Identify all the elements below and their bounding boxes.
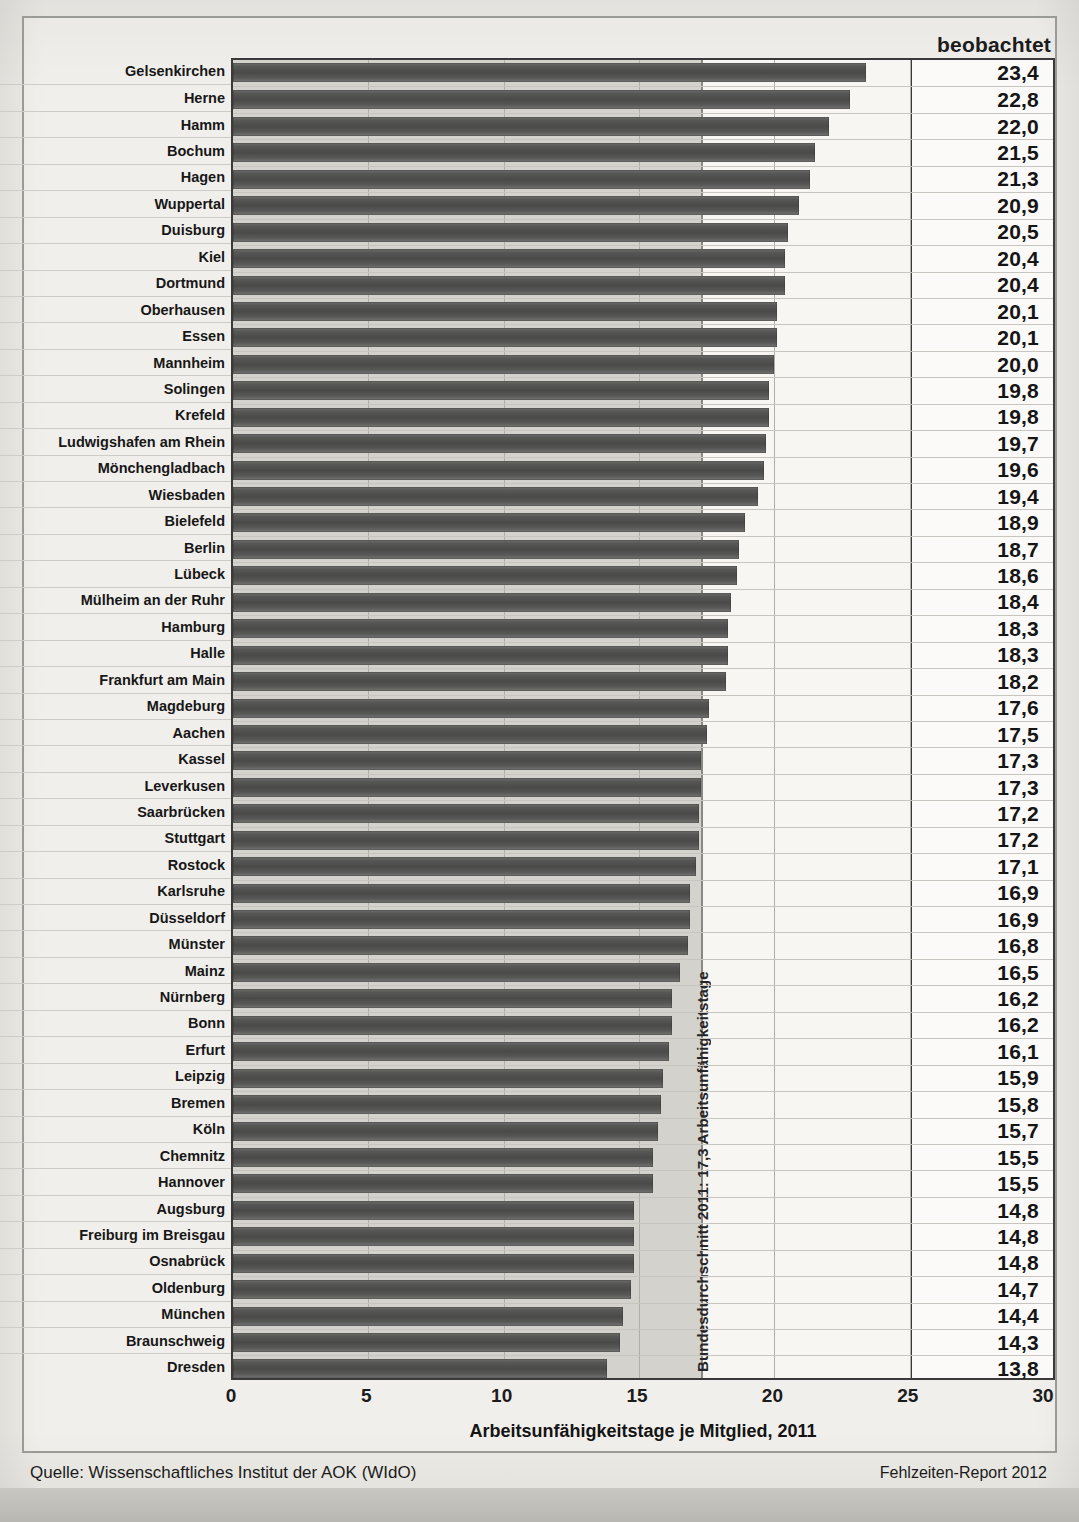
bar-row: 19,8 (233, 377, 1053, 403)
page-bottom-band (0, 1488, 1079, 1522)
bar (233, 487, 758, 506)
category-label: Frankfurt am Main (0, 666, 231, 692)
bar (233, 381, 769, 400)
category-label: Augsburg (0, 1195, 231, 1221)
x-tick-5: 5 (361, 1385, 372, 1407)
bar (233, 989, 672, 1008)
category-label: Gelsenkirchen (0, 58, 231, 84)
bar-value-label: 17,3 (997, 776, 1039, 800)
bar (233, 910, 690, 929)
category-label: Karlsruhe (0, 878, 231, 904)
bar-value-label: 18,9 (997, 511, 1039, 535)
x-tick-15: 15 (626, 1385, 647, 1407)
bar (233, 117, 829, 136)
category-label: Mannheim (0, 349, 231, 375)
bar (233, 1333, 620, 1352)
bar (233, 223, 788, 242)
bar-row: 20,9 (233, 192, 1053, 218)
source-note: Quelle: Wissenschaftliches Institut der … (30, 1463, 416, 1483)
bar-value-label: 18,3 (997, 617, 1039, 641)
report-note: Fehlzeiten-Report 2012 (880, 1464, 1047, 1482)
bar-row: 18,3 (233, 642, 1053, 668)
x-tick-10: 10 (491, 1385, 512, 1407)
bar-value-label: 15,9 (997, 1066, 1039, 1090)
category-label: Wiesbaden (0, 481, 231, 507)
bar-row: 13,8 (233, 1355, 1053, 1381)
bar-value-label: 17,3 (997, 749, 1039, 773)
category-label: Bonn (0, 1010, 231, 1036)
category-label: Freiburg im Breisgau (0, 1221, 231, 1247)
category-label: Aachen (0, 719, 231, 745)
category-label: Düsseldorf (0, 904, 231, 930)
category-label: Münster (0, 930, 231, 956)
bar-value-label: 17,2 (997, 802, 1039, 826)
bar-value-label: 22,8 (997, 88, 1039, 112)
bar (233, 963, 680, 982)
category-label: Dortmund (0, 270, 231, 296)
category-label: Oberhausen (0, 296, 231, 322)
category-label: Berlin (0, 534, 231, 560)
bar (233, 196, 799, 215)
category-label: Wuppertal (0, 190, 231, 216)
bar-row: 14,8 (233, 1197, 1053, 1223)
bar (233, 646, 728, 665)
x-tick-20: 20 (762, 1385, 783, 1407)
bar-value-label: 15,8 (997, 1093, 1039, 1117)
bar-rows: 23,422,822,021,521,320,920,520,420,420,1… (233, 60, 1053, 1378)
bar-value-label: 17,5 (997, 723, 1039, 747)
category-label: Kiel (0, 243, 231, 269)
category-label: Hagen (0, 164, 231, 190)
bar-row: 22,0 (233, 113, 1053, 139)
bar-row: 14,8 (233, 1250, 1053, 1276)
bar-row: 17,3 (233, 774, 1053, 800)
bar (233, 540, 739, 559)
category-label: Oldenburg (0, 1274, 231, 1300)
category-label: Saarbrücken (0, 798, 231, 824)
bar-row: 17,5 (233, 721, 1053, 747)
category-label: München (0, 1301, 231, 1327)
category-label: Rostock (0, 851, 231, 877)
bar-row: 18,9 (233, 509, 1053, 535)
bar-value-label: 19,4 (997, 485, 1039, 509)
bar (233, 936, 688, 955)
bar-value-label: 18,6 (997, 564, 1039, 588)
bar-row: 19,8 (233, 404, 1053, 430)
bar-value-label: 14,8 (997, 1251, 1039, 1275)
bar-row: 17,2 (233, 800, 1053, 826)
bar-row: 18,7 (233, 536, 1053, 562)
bar-row: 16,2 (233, 985, 1053, 1011)
bar-row: 14,8 (233, 1223, 1053, 1249)
bar (233, 302, 777, 321)
bar-value-label: 18,2 (997, 670, 1039, 694)
bar-value-label: 17,2 (997, 828, 1039, 852)
bar-row: 14,4 (233, 1303, 1053, 1329)
category-label: Essen (0, 322, 231, 348)
category-label: Dresden (0, 1353, 231, 1379)
bar-row: 15,8 (233, 1091, 1053, 1117)
category-label: Hamburg (0, 613, 231, 639)
bar-value-label: 20,1 (997, 326, 1039, 350)
category-label: Halle (0, 640, 231, 666)
category-label: Mönchengladbach (0, 455, 231, 481)
bar (233, 170, 810, 189)
category-label: Köln (0, 1116, 231, 1142)
bar (233, 857, 696, 876)
bar-row: 17,6 (233, 695, 1053, 721)
category-label: Solingen (0, 375, 231, 401)
bar (233, 672, 726, 691)
bar-row: 16,2 (233, 1012, 1053, 1038)
bar (233, 884, 690, 903)
bar-row: 16,8 (233, 932, 1053, 958)
bar (233, 699, 709, 718)
x-axis-ticks: 051015202530 (231, 1385, 1055, 1415)
bar (233, 1016, 672, 1035)
bar-row: 22,8 (233, 86, 1053, 112)
bar-value-label: 16,2 (997, 987, 1039, 1011)
bar (233, 804, 699, 823)
bar-value-label: 23,4 (997, 61, 1039, 85)
category-label: Lübeck (0, 560, 231, 586)
category-label: Bochum (0, 137, 231, 163)
x-tick-25: 25 (897, 1385, 918, 1407)
bar (233, 355, 774, 374)
category-label: Hamm (0, 111, 231, 137)
